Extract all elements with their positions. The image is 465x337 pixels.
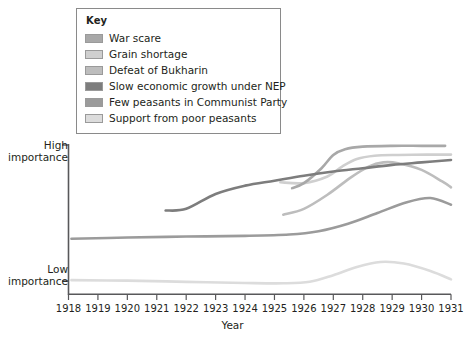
legend-item: Slow economic growth under NEP <box>85 78 272 94</box>
y-axis-low-line2: importance <box>0 275 68 287</box>
legend-item-label: Defeat of Bukharin <box>109 64 208 77</box>
series-line <box>71 198 451 239</box>
y-axis-low-label: Low importance <box>0 263 68 287</box>
legend-item: War scare <box>85 30 272 46</box>
x-ticks <box>69 294 452 300</box>
chart-root: Key War scareGrain shortageDefeat of Buk… <box>0 0 465 337</box>
legend-title: Key <box>86 15 272 27</box>
legend-item: Grain shortage <box>85 46 272 62</box>
legend-swatch <box>85 98 103 107</box>
x-tick-label: 1931 <box>434 303 465 314</box>
y-axis-high-line2: importance <box>0 151 68 163</box>
series-layer <box>71 146 451 284</box>
legend-items: War scareGrain shortageDefeat of Bukhari… <box>85 30 272 126</box>
series-line <box>71 262 451 284</box>
legend-swatch <box>85 50 103 59</box>
legend-item: Defeat of Bukharin <box>85 62 272 78</box>
legend-swatch <box>85 114 103 123</box>
legend-swatch <box>85 34 103 43</box>
axis-layer <box>62 144 451 300</box>
legend-item: Support from poor peasants <box>85 110 272 126</box>
legend-item-label: Grain shortage <box>109 48 187 61</box>
legend-item-label: War scare <box>109 32 161 45</box>
legend-item-label: Support from poor peasants <box>109 112 257 125</box>
legend-swatch <box>85 82 103 91</box>
y-axis-high-label: High importance <box>0 139 68 163</box>
series-line <box>283 162 451 215</box>
legend-item-label: Few peasants in Communist Party <box>109 96 287 109</box>
legend-swatch <box>85 66 103 75</box>
chart-legend: Key War scareGrain shortageDefeat of Buk… <box>76 8 281 134</box>
legend-item: Few peasants in Communist Party <box>85 94 272 110</box>
x-axis-title: Year <box>0 319 465 331</box>
y-axis-high-line1: High <box>0 139 68 151</box>
y-axis-low-line1: Low <box>0 263 68 275</box>
legend-item-label: Slow economic growth under NEP <box>109 80 286 93</box>
